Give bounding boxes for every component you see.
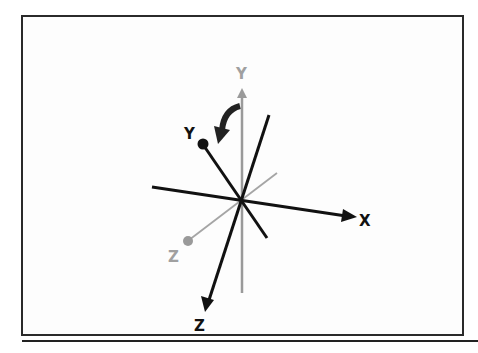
rotated-y-label: Y [183, 125, 196, 143]
axis-rotation-diagram: Y Z X Y Z [0, 0, 478, 353]
original-z-label: Z [168, 248, 179, 266]
x-axis-label: X [359, 212, 371, 230]
x-axis [152, 187, 357, 222]
rotated-z-label: Z [194, 317, 205, 335]
original-y-label: Y [235, 65, 248, 83]
rotation-arrow-icon [214, 106, 240, 144]
rotated-z-axis [201, 115, 269, 312]
